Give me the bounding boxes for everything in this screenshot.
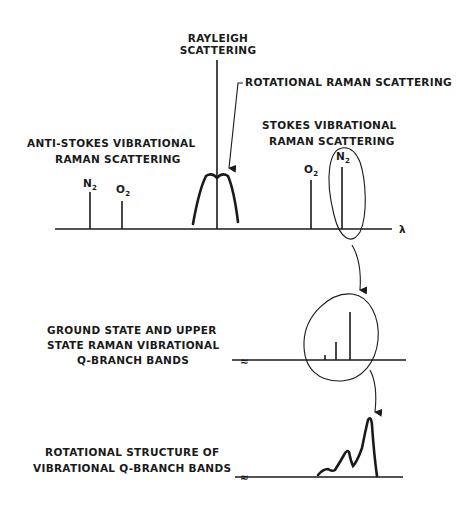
anti-stokes-label-line1: ANTI-STOKES VIBRATIONAL: [27, 137, 195, 149]
top-spectrum: RAYLEIGH SCATTERING ROTATIONAL RAMAN SCA…: [27, 32, 452, 239]
zoom-arrow-top-to-middle: [352, 245, 360, 290]
axis-break-icon: ≈: [240, 471, 249, 483]
stokes-n2-label: N2: [336, 150, 350, 165]
bottom-label-line2: VIBRATIONAL Q-BRANCH BANDS: [33, 462, 231, 474]
rayleigh-label-line1: RAYLEIGH: [188, 32, 248, 44]
anti-stokes-label-line2: RAMAN SCATTERING: [55, 153, 181, 165]
middle-label-line1: GROUND STATE AND UPPER: [47, 324, 217, 336]
stokes-label-line1: STOKES VIBRATIONAL: [262, 119, 397, 131]
axis-break-icon: ≈: [240, 355, 249, 367]
rotational-raman-label: ROTATIONAL RAMAN SCATTERING: [245, 76, 452, 88]
rotational-leader-arrow: [229, 83, 243, 168]
anti-stokes-n2-label: N2: [83, 177, 97, 192]
rotational-raman-envelope: [193, 174, 238, 224]
lambda-symbol: λ: [399, 223, 406, 235]
zoom-arrow-middle-to-bottom: [370, 370, 376, 412]
rotational-band-profile: [318, 418, 377, 476]
q-branch-highlight-circle: [304, 294, 378, 381]
bottom-spectrum: ROTATIONAL STRUCTURE OF VIBRATIONAL Q-BR…: [33, 418, 403, 483]
stokes-label-line2: RAMAN SCATTERING: [269, 135, 395, 147]
middle-label-line2: STATE RAMAN VIBRATIONAL: [47, 339, 219, 351]
bottom-label-line1: ROTATIONAL STRUCTURE OF: [45, 446, 220, 458]
rayleigh-label-line2: SCATTERING: [180, 44, 257, 56]
middle-spectrum: GROUND STATE AND UPPER STATE RAMAN VIBRA…: [47, 294, 406, 381]
middle-label-line3: Q-BRANCH BANDS: [77, 354, 189, 366]
stokes-o2-label: O2: [304, 163, 318, 178]
anti-stokes-o2-label: O2: [116, 183, 130, 198]
raman-scattering-diagram: RAYLEIGH SCATTERING ROTATIONAL RAMAN SCA…: [0, 0, 472, 511]
